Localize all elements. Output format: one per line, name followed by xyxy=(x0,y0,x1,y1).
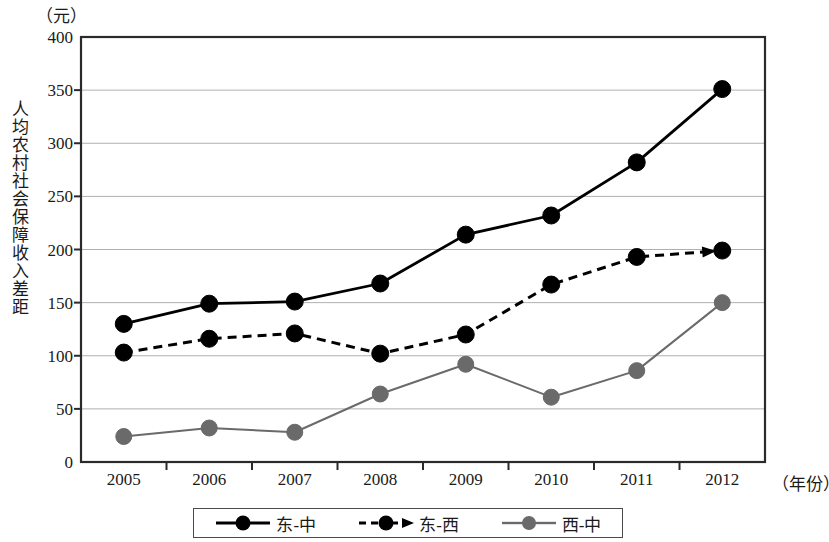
gridlines xyxy=(81,90,765,409)
legend: 东-中东-西西-中 xyxy=(193,508,623,538)
x-tick-label: 2011 xyxy=(602,470,672,490)
data-point xyxy=(457,326,474,343)
x-axis-ticks xyxy=(167,462,680,470)
data-point xyxy=(457,226,474,243)
data-point xyxy=(116,429,132,445)
y-tick-label: 350 xyxy=(27,81,73,101)
y-tick-label: 400 xyxy=(27,28,73,48)
x-tick-label: 2012 xyxy=(687,470,757,490)
data-point xyxy=(286,325,303,342)
x-tick-label: 2005 xyxy=(89,470,159,490)
series-line-1 xyxy=(124,89,723,324)
data-point xyxy=(115,344,132,361)
data-point xyxy=(372,275,389,292)
data-point xyxy=(372,345,389,362)
legend-item-3: 西-中 xyxy=(500,511,602,536)
data-point xyxy=(201,295,218,312)
chart-plot-area xyxy=(0,0,829,542)
legend-label: 西-中 xyxy=(562,511,602,536)
data-point xyxy=(714,295,730,311)
data-point xyxy=(201,330,218,347)
data-point xyxy=(628,248,645,265)
legend-label: 东-西 xyxy=(419,511,459,536)
x-tick-label: 2006 xyxy=(174,470,244,490)
legend-swatch-3 xyxy=(500,514,558,532)
data-point xyxy=(287,424,303,440)
x-tick-label: 2007 xyxy=(260,470,330,490)
data-point xyxy=(458,356,474,372)
y-tick-label: 50 xyxy=(27,400,73,420)
y-tick-label: 250 xyxy=(27,187,73,207)
chart-figure: （元） 人均农村社会保障收入差距 （年份） 050100150200250300… xyxy=(0,0,829,542)
data-point xyxy=(628,154,645,171)
x-tick-label: 2008 xyxy=(345,470,415,490)
y-tick-label: 300 xyxy=(27,134,73,154)
legend-item-2: 东-西 xyxy=(357,511,459,536)
x-tick-label: 2010 xyxy=(516,470,586,490)
x-tick-label: 2009 xyxy=(431,470,501,490)
data-point xyxy=(714,81,731,98)
data-point xyxy=(714,242,731,259)
data-point xyxy=(372,386,388,402)
y-tick-label: 0 xyxy=(27,453,73,473)
legend-items: 东-中东-西西-中 xyxy=(194,509,622,537)
data-point xyxy=(115,315,132,332)
legend-swatch-1 xyxy=(214,514,272,532)
data-point xyxy=(629,363,645,379)
legend-item-1: 东-中 xyxy=(214,511,316,536)
data-point xyxy=(201,420,217,436)
data-point xyxy=(286,293,303,310)
data-point xyxy=(543,207,560,224)
y-tick-label: 100 xyxy=(27,347,73,367)
legend-label: 东-中 xyxy=(276,511,316,536)
data-point xyxy=(543,389,559,405)
data-point xyxy=(543,276,560,293)
data-series-layer xyxy=(115,81,731,445)
y-tick-label: 150 xyxy=(27,294,73,314)
legend-swatch-2 xyxy=(357,514,415,532)
y-tick-label: 200 xyxy=(27,241,73,261)
